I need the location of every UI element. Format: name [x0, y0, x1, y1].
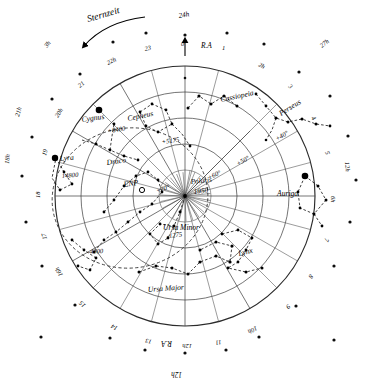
constellation-label-cassiopeia: Cassiopeia — [220, 88, 255, 104]
ra-tick-4: 4 — [310, 115, 318, 122]
constellation-label-cygnus: Cygnus — [81, 112, 105, 124]
ra-outer-label-3h: 3h — [42, 39, 52, 49]
ra-tick-17: 17 — [39, 232, 48, 241]
ra-spoke-13 — [151, 196, 185, 322]
ra-tick-1: 1 — [222, 44, 225, 51]
ra-tick-13: 13 — [144, 338, 152, 346]
constellation-line-ursa-major — [139, 242, 232, 274]
year-label-14800: 14800 — [62, 171, 80, 179]
ra-outer-label-21h: 21h — [13, 106, 22, 117]
year-label-8400: +8400 — [107, 125, 126, 134]
ra-spoke-23 — [151, 70, 185, 196]
ra-tick-8: 8 — [307, 273, 315, 280]
ra-axis-label-top: R.A — [200, 41, 212, 50]
ra-outer-label-18h: 18h — [3, 154, 11, 164]
ra-outer-label-27h: 27h — [318, 37, 330, 49]
constellation-label-auriga: Auriga — [276, 189, 298, 198]
sky-chart-svg: Sternzeit 24h R.A 12h R.A 0 1 2h 3 4 5 6… — [0, 0, 369, 382]
year-label-4500: -4500 — [88, 247, 105, 255]
ra-axis-label-bottom: R.A — [161, 339, 173, 348]
constellation-label-ursa-major: Ursa Major — [148, 282, 185, 293]
ra-tick-15: 15 — [77, 300, 86, 309]
ra-tick-7: 7 — [323, 238, 331, 244]
ra-tick-12: 12h — [182, 343, 192, 350]
ra-outer-label-12h: 12h — [344, 162, 352, 172]
ra-tick-11: 11 — [215, 339, 222, 347]
ra-spoke-7 — [185, 196, 311, 230]
ra-tick-23: 23 — [144, 44, 152, 52]
ra-tick-20: 20h — [53, 107, 64, 119]
ra-tick-16: 16h — [53, 266, 64, 278]
ra-tick-10: 10h — [247, 325, 259, 335]
star-polaris — [183, 194, 187, 198]
star-chart-root: Sternzeit 24h R.A 12h R.A 0 1 2h 3 4 5 6… — [0, 0, 369, 382]
dec-label-50: +50° — [235, 154, 251, 167]
ra-tick-9: 9 — [284, 303, 292, 311]
star-vega — [52, 155, 58, 161]
sternzeit-label: Sternzeit — [86, 5, 121, 24]
ra-label-24h: 24h — [178, 10, 190, 20]
constellation-line-auriga — [298, 176, 326, 214]
constellation-label-cepheus: Cepheus — [127, 109, 154, 123]
ra-tick-18: 18 — [34, 191, 41, 198]
ra-tick-0: 0 — [181, 40, 185, 47]
ra-label-12h-bottom: 12h — [171, 370, 182, 378]
polaris-label: Polaris — [189, 176, 212, 186]
ra-tick-2: 2h — [258, 61, 267, 70]
ra-tick-6: 6h — [330, 196, 337, 202]
constellation-label-lyra: Lyra — [58, 153, 74, 164]
star-capella — [302, 173, 309, 180]
year-label-1275: -1275 — [166, 230, 183, 239]
constellation-label-perseus: Perseus — [276, 97, 302, 118]
enp-marker — [139, 187, 144, 192]
ra-tick-5: 5 — [324, 150, 332, 155]
ra-tick-3: 3 — [287, 82, 295, 90]
ra-tick-19: 19 — [40, 147, 49, 156]
year-label-5175: +5175 — [161, 136, 180, 145]
ra-tick-14: 14 — [109, 323, 119, 333]
ra-spoke-11 — [185, 196, 219, 322]
ra-spoke-9 — [185, 196, 277, 288]
enp-label: ENP — [122, 178, 139, 189]
ra-tick-22: 22h — [105, 55, 117, 65]
constellation-label-draco: Draco — [105, 155, 127, 167]
constellation-label-lynx: Lynx — [236, 246, 254, 259]
polaris-epoch-label: 1950 — [193, 186, 209, 196]
ra-tick-21: 21 — [76, 79, 85, 88]
constellation-line-auriga-b — [314, 214, 322, 226]
